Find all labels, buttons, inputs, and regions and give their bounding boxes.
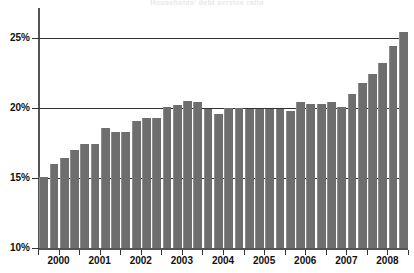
- bar: [265, 109, 274, 248]
- bar: [306, 104, 315, 248]
- bar: [193, 102, 202, 248]
- y-tick-10: [32, 248, 39, 249]
- y-axis-label: 15%: [0, 173, 30, 183]
- bar: [183, 101, 192, 248]
- bar: [152, 118, 161, 248]
- bar: [276, 109, 285, 248]
- bar: [337, 107, 346, 248]
- bar: [235, 108, 244, 248]
- bar: [286, 111, 295, 248]
- x-axis-label-2004: 2004: [203, 255, 243, 267]
- x-axis-label-2008: 2008: [367, 255, 407, 267]
- x-axis-label-2001: 2001: [80, 255, 120, 267]
- bar: [358, 83, 367, 248]
- bar: [389, 46, 398, 248]
- bar: [204, 109, 213, 248]
- y-axis-label: 20%: [0, 103, 30, 113]
- bar: [245, 109, 254, 248]
- bar: [173, 105, 182, 248]
- bar: [317, 104, 326, 248]
- x-tick: [408, 250, 409, 255]
- bar: [132, 121, 141, 248]
- x-axis-label-2003: 2003: [162, 255, 202, 267]
- bar: [348, 94, 357, 248]
- bar: [39, 177, 48, 248]
- bar: [91, 144, 100, 248]
- x-axis-label-2002: 2002: [121, 255, 161, 267]
- x-axis-label-2007: 2007: [326, 255, 366, 267]
- bar-chart: Households' debt service ratio 10%15%20%…: [0, 0, 414, 273]
- chart-title: Households' debt service ratio: [0, 0, 414, 6]
- bars-container: [38, 8, 408, 248]
- bar: [50, 164, 59, 248]
- bar: [163, 107, 172, 248]
- x-axis-label-2006: 2006: [285, 255, 325, 267]
- bar: [80, 144, 89, 248]
- bar: [111, 132, 120, 248]
- bar: [327, 102, 336, 248]
- bar: [60, 158, 69, 248]
- bar: [101, 128, 110, 248]
- bar: [142, 118, 151, 248]
- bar: [121, 132, 130, 248]
- bar: [255, 109, 264, 248]
- y-axis-label: 10%: [0, 243, 30, 253]
- x-axis-label-2005: 2005: [244, 255, 284, 267]
- bar: [368, 74, 377, 248]
- bar: [378, 63, 387, 248]
- bar: [70, 150, 79, 248]
- bar: [296, 102, 305, 248]
- y-axis-label: 25%: [0, 33, 30, 43]
- bar: [214, 114, 223, 248]
- bar: [224, 108, 233, 248]
- bar: [399, 32, 408, 248]
- x-axis-label-2000: 2000: [39, 255, 79, 267]
